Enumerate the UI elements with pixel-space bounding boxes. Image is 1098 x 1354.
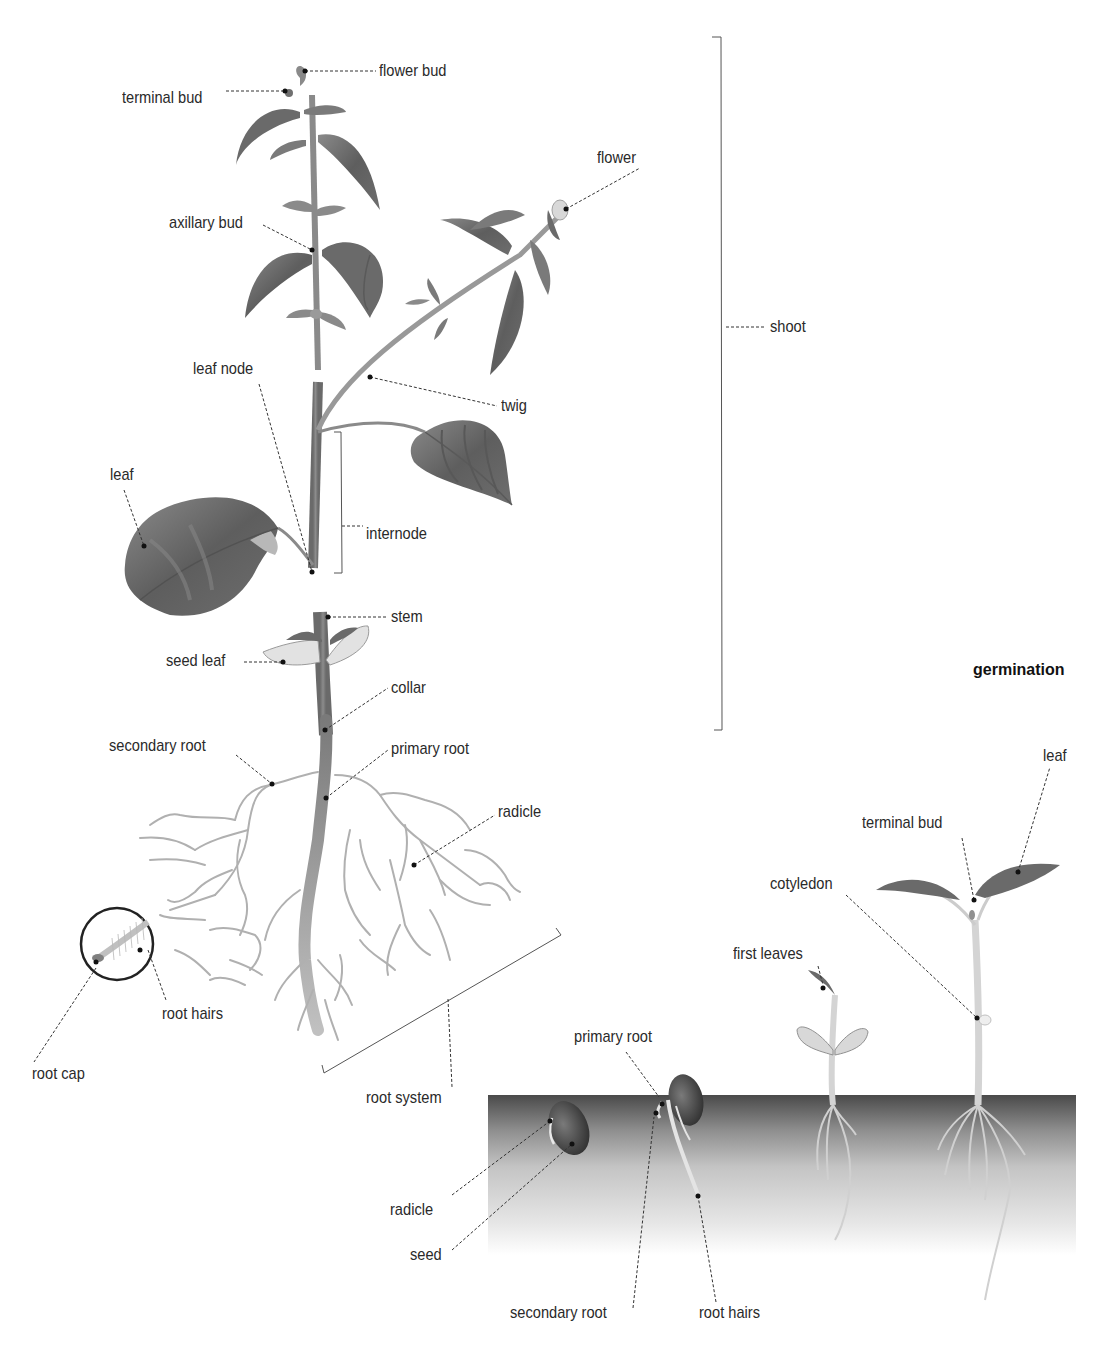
label-root-cap: root cap: [32, 1064, 85, 1084]
root-hair-magnifier: [81, 908, 153, 980]
label-root-hairs: root hairs: [162, 1004, 223, 1024]
label-shoot: shoot: [770, 317, 806, 337]
plant-diagram-illustration: [0, 0, 1098, 1354]
label-germ-primary-root: primary root: [574, 1027, 652, 1047]
label-primary-root: primary root: [391, 739, 469, 759]
label-radicle: radicle: [498, 802, 541, 822]
label-germ-secondary-root: secondary root: [510, 1303, 607, 1323]
internode-bracket: [334, 432, 342, 573]
label-terminal-bud: terminal bud: [122, 88, 202, 108]
main-plant-shoot: [125, 66, 568, 616]
label-germ-first-leaves: first leaves: [733, 944, 803, 964]
leaf: [236, 109, 300, 165]
root-system-bracket: [322, 928, 561, 1073]
shoot-bracket: [712, 37, 722, 730]
brackets: [322, 37, 722, 1073]
label-flower: flower: [597, 148, 636, 168]
label-twig: twig: [501, 396, 527, 416]
label-internode: internode: [366, 524, 427, 544]
label-flower-bud: flower bud: [379, 61, 446, 81]
main-plant-roots: [81, 612, 520, 1040]
label-germ-cotyledon: cotyledon: [770, 874, 833, 894]
label-leaf-node: leaf node: [193, 359, 253, 379]
label-germ-seed: seed: [410, 1245, 442, 1265]
label-seed-leaf: seed leaf: [166, 651, 225, 671]
label-germ-radicle: radicle: [390, 1200, 433, 1220]
germination-title: germination: [973, 661, 1065, 679]
label-stem: stem: [391, 607, 423, 627]
label-germ-terminal-bud: terminal bud: [862, 813, 942, 833]
label-axillary-bud: axillary bud: [169, 213, 243, 233]
label-leaf: leaf: [110, 465, 134, 485]
label-germ-root-hairs: root hairs: [699, 1303, 760, 1323]
label-collar: collar: [391, 678, 426, 698]
label-secondary-root: secondary root: [109, 736, 206, 756]
label-germ-leaf: leaf: [1043, 746, 1067, 766]
label-root-system: root system: [366, 1088, 442, 1108]
